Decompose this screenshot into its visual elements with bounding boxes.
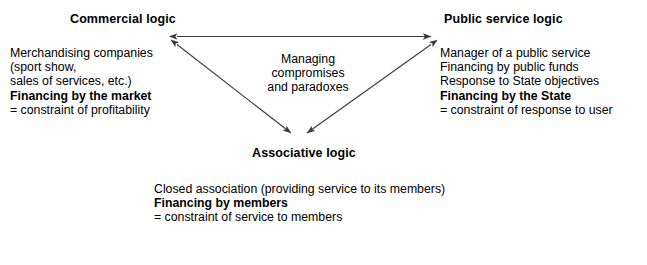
node-title-associative-logic: Associative logic (252, 146, 356, 160)
description-line: Manager of a public service (440, 46, 613, 60)
description-commercial-logic: Merchandising companies (sport show, sal… (10, 46, 153, 117)
center-note-managing-compromises: Managing compromises and paradoxes (238, 52, 378, 95)
center-note-line: and paradoxes (238, 80, 378, 94)
logics-triangle-diagram: Commercial logic Public service logic As… (0, 0, 647, 265)
connector-arrows (0, 0, 647, 265)
description-line: = constraint of response to user (440, 103, 613, 117)
description-line: Closed association (providing service to… (154, 182, 445, 196)
description-line: sales of services, etc.) (10, 74, 153, 88)
node-title-public-service-logic: Public service logic (444, 12, 563, 26)
description-line: (sport show, (10, 60, 153, 74)
center-note-line: compromises (238, 66, 378, 80)
center-note-line: Managing (238, 52, 378, 66)
description-line-emphasis: Financing by members (154, 196, 445, 210)
description-public-service-logic: Manager of a public service Financing by… (440, 46, 613, 117)
description-line: Merchandising companies (10, 46, 153, 60)
description-line: = constraint of service to members (154, 210, 445, 224)
description-line-emphasis: Financing by the State (440, 89, 613, 103)
description-associative-logic: Closed association (providing service to… (154, 182, 445, 225)
description-line-emphasis: Financing by the market (10, 89, 153, 103)
description-line: Response to State objectives (440, 74, 613, 88)
description-line: Financing by public funds (440, 60, 613, 74)
node-title-commercial-logic: Commercial logic (70, 12, 176, 26)
description-line: = constraint of profitability (10, 103, 153, 117)
